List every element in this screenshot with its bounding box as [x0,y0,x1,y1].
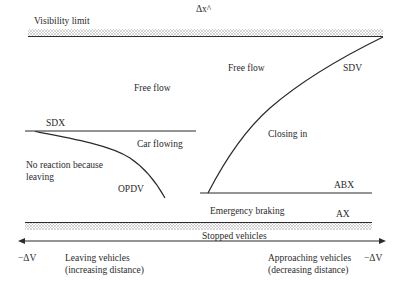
emergency-braking-label: Emergency braking [210,206,284,217]
leaving-vehicles-label-line1: Leaving vehicles [65,253,130,264]
closing-in-label: Closing in [268,129,307,140]
no-reaction-label-line2: leaving [26,172,54,183]
ax-label: AX [336,209,350,220]
ax-band [25,223,372,231]
approaching-vehicles-label-line2: (decreasing distance) [268,265,348,276]
diagram-canvas [0,0,399,286]
leaving-vehicles-label-line2: (increasing distance) [65,265,144,276]
visibility-limit-label: Visibility limit [34,16,90,27]
approaching-vehicles-label-line1: Approaching vehicles [268,253,351,264]
right-axis-end-label: −ΔV [364,253,382,264]
visibility-limit-band [28,29,383,37]
free-flow-left-label: Free flow [134,83,171,94]
left-axis-end-label: −ΔV [18,253,36,264]
top-axis-label: Δx^ [196,4,211,15]
no-reaction-label-line1: No reaction because [26,160,103,171]
abx-label: ABX [334,180,354,191]
free-flow-right-label: Free flow [228,63,265,74]
stopped-vehicles-label: Stopped vehicles [202,231,267,242]
car-flowing-label: Car flowing [137,139,183,150]
sdx-label: SDX [46,118,65,129]
sdv-label: SDV [343,63,362,74]
opdv-label: OPDV [118,184,144,195]
sdv-curve [208,37,383,193]
